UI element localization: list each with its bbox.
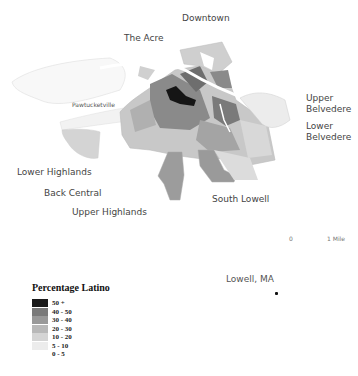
scale-bar-end: 1 Mile: [327, 233, 345, 244]
label-lower-belvedere: Lower Belvedere: [306, 121, 351, 143]
label-upper-highlands: Upper Highlands: [72, 207, 147, 218]
legend-swatch: [32, 342, 48, 350]
legend: Percentage Latino 50 + 40 - 50 30 - 40 2…: [32, 282, 110, 359]
legend-swatch: [32, 299, 48, 307]
legend-title: Percentage Latino: [32, 282, 110, 293]
location-marker-icon: [275, 292, 278, 295]
label-upper-belvedere: Upper Belvedere: [306, 93, 351, 115]
back-central-tract: [158, 152, 184, 200]
inset-label: Lowell, MA: [226, 274, 274, 285]
legend-row: 40 - 50: [32, 308, 110, 317]
legend-row: 30 - 40: [32, 316, 110, 325]
legend-swatch: [32, 333, 48, 341]
label-the-acre: The Acre: [124, 33, 164, 44]
legend-swatch: [32, 316, 48, 324]
legend-row: 5 - 10: [32, 342, 110, 351]
choropleth-map: [0, 0, 358, 260]
legend-row: 50 +: [32, 299, 110, 308]
legend-swatch: [32, 308, 48, 316]
legend-swatch: [32, 350, 48, 358]
legend-row: 0 - 5: [32, 350, 110, 359]
legend-row: 10 - 20: [32, 333, 110, 342]
scale-bar-start: 0: [289, 233, 293, 244]
label-lower-highlands: Lower Highlands: [17, 167, 92, 178]
lower-highlands-region: [62, 129, 100, 158]
label-back-central: Back Central: [44, 188, 101, 199]
legend-swatch: [32, 325, 48, 333]
pawtucketville-outline: [12, 58, 125, 104]
label-pawtucketville: Pawtucketville: [72, 99, 115, 110]
label-south-lowell: South Lowell: [212, 194, 269, 205]
label-downtown: Downtown: [182, 13, 230, 24]
legend-row: 20 - 30: [32, 325, 110, 334]
